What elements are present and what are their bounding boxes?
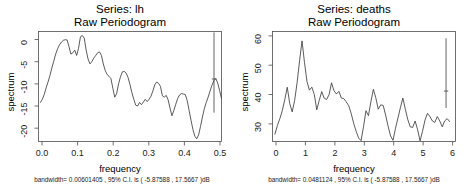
panel-right-ytick-marks bbox=[269, 36, 273, 124]
ytick-0: 0 bbox=[19, 40, 29, 45]
panel-left-series-line bbox=[40, 35, 221, 138]
panel-right-xtick-marks bbox=[276, 142, 453, 146]
xtick-5: 5 bbox=[421, 148, 426, 158]
ytick-3: -15 bbox=[19, 102, 29, 115]
xtick-1: 0.1 bbox=[71, 148, 84, 158]
panel-left-svg: Series: lh Raw Periodogram frequency spe… bbox=[0, 0, 232, 191]
xtick-0: 0.0 bbox=[36, 148, 49, 158]
xtick-6: 6 bbox=[450, 148, 455, 158]
panel-right-ylabel: spectrum bbox=[239, 72, 250, 111]
periodogram-panel-lh: Series: lh Raw Periodogram frequency spe… bbox=[0, 0, 232, 191]
ytick-1: 50 bbox=[253, 63, 263, 73]
panel-right-title: Series: deaths bbox=[317, 3, 391, 15]
ytick-4: -20 bbox=[19, 125, 29, 138]
panel-left-title: Series: lh bbox=[96, 3, 144, 15]
panel-left-xtick-labels: 0.0 0.1 0.2 0.3 0.4 0.5 bbox=[36, 148, 227, 158]
ytick-2: 40 bbox=[253, 92, 263, 102]
panel-left-plot-area bbox=[35, 32, 222, 146]
xtick-4: 4 bbox=[391, 148, 396, 158]
panel-right-ci-marker bbox=[444, 38, 448, 108]
ytick-1: -5 bbox=[19, 61, 29, 69]
xtick-1: 1 bbox=[303, 148, 308, 158]
periodogram-figure: Series: lh Raw Periodogram frequency spe… bbox=[0, 0, 464, 191]
panel-left-xtick-marks bbox=[42, 142, 220, 146]
xtick-4: 0.4 bbox=[178, 148, 191, 158]
panel-left-ytick-labels: 0 -5 -10 -15 -20 bbox=[19, 40, 29, 138]
ytick-0: 60 bbox=[253, 34, 263, 44]
panel-left-ylabel: spectrum bbox=[5, 72, 16, 111]
panel-left-caption: bandwidth= 0.00601405 , 95% C.I. is ( -5… bbox=[34, 176, 210, 184]
panel-right-xlabel: frequency bbox=[333, 163, 375, 174]
panel-right-svg: Series: deaths Raw Periodogram frequency… bbox=[232, 0, 464, 191]
panel-right-xtick-labels: 0 1 2 3 4 5 6 bbox=[273, 148, 455, 158]
xtick-5: 0.5 bbox=[214, 148, 227, 158]
panel-right-ytick-labels: 60 50 40 30 bbox=[253, 34, 263, 132]
xtick-3: 3 bbox=[362, 148, 367, 158]
panel-left-subtitle: Raw Periodogram bbox=[74, 16, 166, 28]
xtick-2: 2 bbox=[332, 148, 337, 158]
ytick-3: 30 bbox=[253, 122, 263, 132]
periodogram-panel-deaths: Series: deaths Raw Periodogram frequency… bbox=[232, 0, 464, 191]
panel-right-subtitle: Raw Periodogram bbox=[308, 16, 400, 28]
panel-left-xlabel: frequency bbox=[99, 163, 141, 174]
xtick-0: 0 bbox=[273, 148, 278, 158]
panel-left-ci-marker bbox=[212, 32, 216, 112]
panel-right-caption: bandwidth= 0.0481124 , 95% C.I. is ( -5.… bbox=[268, 176, 440, 184]
xtick-3: 0.3 bbox=[143, 148, 156, 158]
panel-right-series-line bbox=[275, 41, 450, 141]
xtick-2: 0.2 bbox=[107, 148, 120, 158]
ytick-2: -10 bbox=[19, 80, 29, 93]
panel-left-ytick-marks bbox=[35, 40, 39, 129]
